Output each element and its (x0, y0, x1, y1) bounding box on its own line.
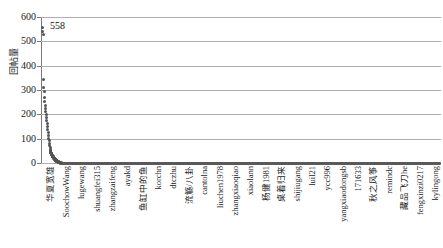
chart-container: 回帖量 0100200300400500600 558 华夏宽雄SoochowW… (0, 0, 443, 248)
x-tick-label: lugewang (77, 166, 86, 199)
x-tick-label: zhangzaifeng (108, 166, 117, 211)
x-tick-label: 171633 (354, 166, 363, 192)
data-point (42, 86, 45, 89)
x-tick-label: SoochowWang (62, 166, 71, 217)
x-tick-label: 秋之风筝 (369, 166, 378, 202)
data-series (41, 17, 441, 163)
y-tick-mark (37, 163, 41, 164)
y-tick-label: 200 (10, 109, 36, 119)
plot-area: 558 (41, 17, 441, 163)
data-label-peak: 558 (50, 20, 65, 31)
x-tick-label: dtczhu (169, 166, 178, 189)
x-tick-label: xiaolann (246, 166, 255, 195)
y-tick-label: 300 (10, 85, 36, 95)
x-tick-label: zhangxiaoqiao (231, 166, 240, 216)
x-tick-label: yangxiaodongsb (339, 166, 348, 222)
x-tick-label: shijiugang (293, 166, 302, 201)
data-point (43, 90, 46, 93)
data-point (60, 161, 63, 164)
x-tick-label: korchn (154, 166, 163, 190)
data-point (43, 100, 46, 103)
x-tick-label: remindc (385, 166, 394, 194)
data-point (42, 78, 45, 81)
data-point (43, 96, 46, 99)
y-tick-label: 100 (10, 134, 36, 144)
x-tick-label: 华夏宽雄 (46, 166, 55, 202)
x-tick-label: ycc996 (323, 166, 332, 191)
x-tick-label: kylingong (431, 166, 440, 200)
long-tail-segment (59, 162, 441, 165)
x-tick-label: luil21 (308, 166, 317, 186)
y-tick-label: 0 (10, 158, 36, 168)
x-tick-label: cantolna (200, 166, 209, 195)
x-tick-label: 鱼缸中的鱼 (139, 166, 148, 211)
x-tick-label: ayakd (123, 166, 132, 186)
x-tick-label: 流觞/八卦 (185, 166, 194, 204)
y-tick-label: 500 (10, 36, 36, 46)
x-tick-label: 杨健1981 (262, 166, 271, 201)
x-axis-tick-labels: 华夏宽雄SoochowWanglugewangshuangfei315zhang… (41, 166, 441, 248)
x-tick-label: 桌着归来 (277, 166, 286, 202)
y-tick-label: 400 (10, 61, 36, 71)
x-tick-label: fengxinzi0217 (416, 166, 425, 215)
x-tick-label: 藏品飞刀he (400, 166, 409, 210)
y-axis-tick-labels: 0100200300400500600 (10, 0, 36, 248)
data-point (42, 33, 45, 36)
x-tick-label: liuchen1978 (216, 166, 225, 208)
y-tick-label: 600 (10, 12, 36, 22)
x-tick-label: shuangfei315 (93, 166, 102, 212)
data-point (41, 26, 44, 29)
